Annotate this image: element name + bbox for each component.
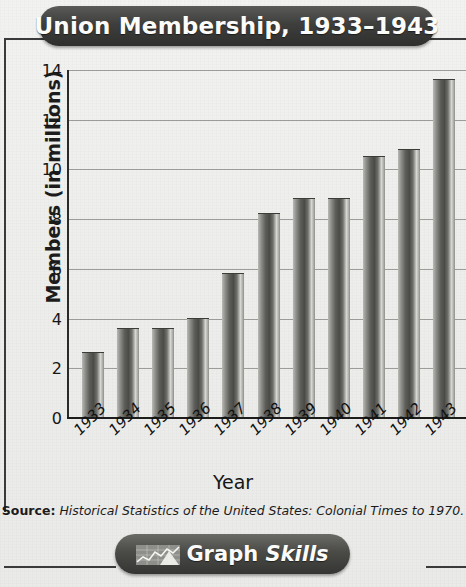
- y-axis-tick-label: 10: [42, 160, 62, 179]
- chart-title-banner: Union Membership, 1933–1943: [39, 6, 435, 46]
- x-axis-label: Year: [0, 471, 466, 493]
- y-axis-tick-label: 4: [52, 309, 62, 328]
- plot-area: 02468101214: [67, 70, 466, 418]
- y-axis-line: [67, 70, 69, 419]
- bar-1938: [258, 213, 280, 418]
- page-border-bottom-right: [426, 566, 466, 568]
- bars-group: [67, 70, 466, 418]
- bar-slot: [145, 70, 180, 418]
- bar-slot: [286, 70, 321, 418]
- bar-1943: [433, 79, 455, 418]
- graph-skills-banner: Graph Skills: [115, 534, 350, 574]
- bar-slot: [216, 70, 251, 418]
- graph-skills-label: Graph Skills: [186, 542, 328, 566]
- y-axis-tick-label: 14: [42, 61, 62, 80]
- bar-slot: [392, 70, 427, 418]
- bar-1939: [293, 198, 315, 418]
- chart-container: Members (in millions) 02468101214 193319…: [0, 56, 466, 436]
- y-axis-tick-label: 2: [52, 359, 62, 378]
- bar-1940: [328, 198, 350, 418]
- bar-slot: [251, 70, 286, 418]
- chart-title: Union Membership, 1933–1943: [34, 13, 439, 39]
- y-axis-tick-label: 12: [42, 110, 62, 129]
- y-axis-tick-label: 6: [52, 259, 62, 278]
- source-note: Source: Historical Statistics of the Uni…: [0, 503, 466, 518]
- bar-slot: [357, 70, 392, 418]
- graph-skills-italic: Skills: [265, 542, 328, 566]
- bar-slot: [181, 70, 216, 418]
- bar-1937: [222, 273, 244, 418]
- bar-slot: [110, 70, 145, 418]
- bar-slot: [427, 70, 462, 418]
- bar-slot: [75, 70, 110, 418]
- bar-1942: [398, 149, 420, 418]
- source-citation: Historical Statistics of the United Stat…: [59, 503, 464, 518]
- source-prefix: Source:: [2, 503, 56, 518]
- bar-slot: [321, 70, 356, 418]
- graph-skills-main: Graph: [186, 542, 258, 566]
- y-axis-label: Members (in millions): [42, 37, 64, 337]
- y-axis-tick-label: 0: [52, 409, 62, 428]
- line-chart-icon: [136, 544, 180, 566]
- y-axis-tick-label: 8: [52, 210, 62, 229]
- page-border-bottom-left: [4, 566, 116, 568]
- bar-1941: [363, 156, 385, 418]
